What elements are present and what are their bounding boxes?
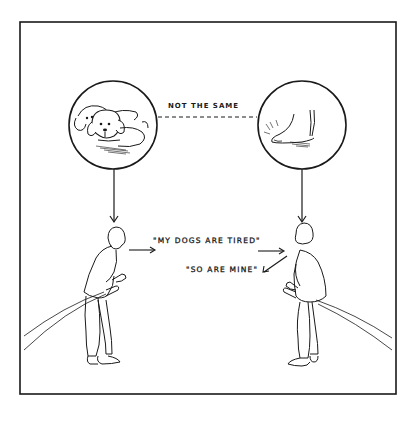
cartoon-panel: NOT THE SAME "MY DOGS ARE TIRED" "SO ARE… xyxy=(0,0,416,424)
speech-bubble-so-are-mine: "SO ARE MINE" xyxy=(186,265,258,274)
cartoon-drawing xyxy=(0,0,416,424)
speech-arrow-right-2-icon xyxy=(258,248,284,254)
dogs-icon xyxy=(69,81,157,169)
speech-bubble-dogs-tired: "MY DOGS ARE TIRED" xyxy=(153,236,261,245)
left-down-arrow-icon xyxy=(110,169,118,222)
left-man-figure xyxy=(24,227,126,364)
comparison-label: NOT THE SAME xyxy=(168,102,239,110)
right-down-arrow-icon xyxy=(298,169,306,222)
panel-frame xyxy=(20,22,396,394)
foot-icon xyxy=(258,81,346,169)
speech-arrow-right-icon xyxy=(129,247,155,253)
right-man-figure xyxy=(283,223,392,366)
reply-arrow-icon xyxy=(263,256,287,272)
